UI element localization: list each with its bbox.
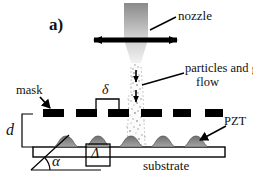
- mask-bar: [43, 109, 64, 117]
- nozzle-group: [124, 3, 176, 63]
- mask-label: mask: [16, 84, 42, 97]
- particles-label-line2: flow: [196, 76, 219, 89]
- particles-label-line1: particles and gas: [185, 62, 253, 75]
- substrate-bar: [33, 147, 225, 157]
- particle-spray: [125, 63, 146, 147]
- angle-label: α: [52, 154, 60, 170]
- mask-leader-line: [40, 97, 50, 108]
- mask-bar: [76, 109, 97, 117]
- slit-width-label: δ: [102, 83, 109, 98]
- figure-canvas: a) nozzle particles and gas flow mask δ …: [0, 0, 253, 188]
- mask-bar: [108, 109, 129, 117]
- panel-label: a): [49, 16, 63, 34]
- mask-bar: [141, 109, 162, 117]
- nozzle-leader-line: [150, 17, 176, 30]
- mask-bar: [205, 109, 223, 117]
- substrate-label: substrate: [143, 159, 189, 173]
- particles-leader-line: [142, 73, 184, 85]
- nozzle-label: nozzle: [178, 9, 212, 23]
- mask-bar: [173, 109, 191, 117]
- pitch-label: Δ: [91, 147, 99, 162]
- pzt-leader-line: [200, 126, 226, 140]
- pzt-mound: [150, 136, 176, 147]
- nozzle-cone: [124, 39, 148, 63]
- slit-width-bracket: [96, 99, 119, 109]
- pzt-features: [53, 136, 209, 147]
- gap-distance-bracket: [22, 114, 33, 147]
- nozzle-body: [124, 3, 148, 39]
- pzt-label: PZT: [224, 115, 246, 128]
- angle-arc: [45, 158, 50, 170]
- gap-distance-label: d: [6, 122, 14, 139]
